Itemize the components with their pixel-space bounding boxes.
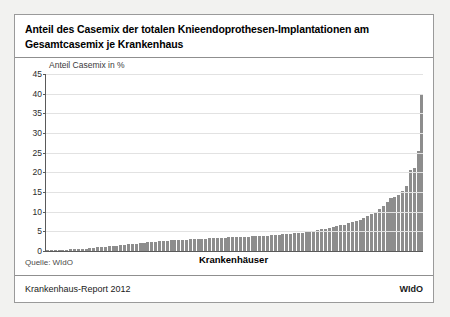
bar	[65, 250, 68, 251]
bar	[413, 168, 416, 251]
bar	[69, 249, 72, 251]
y-tick-mark	[43, 172, 46, 173]
y-tick-label: 10	[33, 207, 42, 217]
bar	[289, 234, 292, 251]
bar	[270, 235, 273, 251]
bar	[166, 241, 169, 251]
gridline	[46, 153, 423, 154]
gridline	[46, 172, 423, 173]
bar	[46, 250, 49, 251]
bar	[254, 236, 257, 251]
bar	[366, 216, 369, 251]
bar	[204, 239, 207, 251]
y-tick-label: 40	[33, 89, 42, 99]
bar	[131, 244, 134, 251]
bar	[119, 245, 122, 251]
bar	[339, 225, 342, 251]
bar	[208, 238, 211, 251]
bar	[285, 234, 288, 251]
bar	[320, 229, 323, 251]
page-title: Anteil des Casemix der totalen Knieendop…	[25, 22, 423, 51]
y-tick-label: 30	[33, 128, 42, 138]
bar	[85, 249, 88, 251]
bar	[224, 238, 227, 251]
bar	[54, 250, 57, 251]
bar	[401, 191, 404, 251]
bar	[135, 244, 138, 251]
bar	[96, 247, 99, 251]
bar	[266, 236, 269, 251]
bar	[104, 247, 107, 251]
gridline	[46, 133, 423, 134]
bar	[50, 250, 53, 251]
bar	[127, 244, 130, 251]
gridline	[46, 94, 423, 95]
bar	[73, 249, 76, 251]
bar	[235, 237, 238, 251]
y-tick-label: 25	[33, 148, 42, 158]
bar	[274, 235, 277, 251]
bar	[378, 209, 381, 251]
y-tick-label: 5	[37, 226, 42, 236]
source-note: Quelle: WIdO	[25, 258, 73, 267]
bar	[293, 233, 296, 251]
bar	[108, 246, 111, 251]
bar	[370, 214, 373, 251]
bar	[123, 245, 126, 251]
chart-axes: 051015202530354045	[45, 74, 423, 252]
y-tick-mark	[43, 133, 46, 134]
bar	[150, 242, 153, 251]
bar	[308, 232, 311, 251]
bar	[142, 243, 145, 251]
gridline	[46, 113, 423, 114]
bar	[162, 241, 165, 251]
figure-page: Anteil des Casemix der totalen Knieendop…	[0, 0, 450, 317]
bar	[227, 237, 230, 251]
y-axis-label: Anteil Casemix in %	[49, 60, 125, 70]
bar	[335, 226, 338, 251]
y-tick-mark	[43, 251, 46, 252]
bar	[362, 218, 365, 251]
bar	[58, 250, 61, 251]
bar	[239, 237, 242, 251]
y-tick-mark	[43, 94, 46, 95]
bar	[177, 240, 180, 251]
bar	[185, 240, 188, 251]
bar	[158, 241, 161, 251]
bar	[216, 238, 219, 251]
y-tick-mark	[43, 192, 46, 193]
bar	[100, 247, 103, 251]
bar	[347, 223, 350, 251]
y-tick-mark	[43, 153, 46, 154]
bar	[92, 248, 95, 251]
chart-figure: Anteil des Casemix der totalen Knieendop…	[14, 14, 434, 303]
y-tick-mark	[43, 113, 46, 114]
bar	[351, 222, 354, 251]
bar	[212, 238, 215, 251]
bar	[258, 236, 261, 251]
bar	[312, 231, 315, 251]
bar	[393, 197, 396, 251]
bar	[112, 246, 115, 251]
bar	[278, 235, 281, 251]
bar	[281, 234, 284, 251]
bar	[247, 237, 250, 251]
bar	[251, 236, 254, 251]
plot-zone: Anteil Casemix in % 051015202530354045 K…	[15, 58, 433, 272]
gridline	[46, 231, 423, 232]
bar	[231, 237, 234, 251]
bar	[77, 249, 80, 251]
bar	[197, 239, 200, 251]
bar	[316, 230, 319, 251]
bar	[397, 195, 400, 251]
bar	[243, 237, 246, 251]
y-tick-label: 15	[33, 187, 42, 197]
bar	[386, 202, 389, 251]
bar	[220, 238, 223, 251]
figure-footer: Krankenhaus-Report 2012 WIdO	[15, 275, 433, 302]
gridline	[46, 74, 423, 75]
bar	[88, 248, 91, 251]
bar	[115, 246, 118, 252]
bar	[154, 242, 157, 251]
chart-title-bar: Anteil des Casemix der totalen Knieendop…	[15, 15, 433, 58]
